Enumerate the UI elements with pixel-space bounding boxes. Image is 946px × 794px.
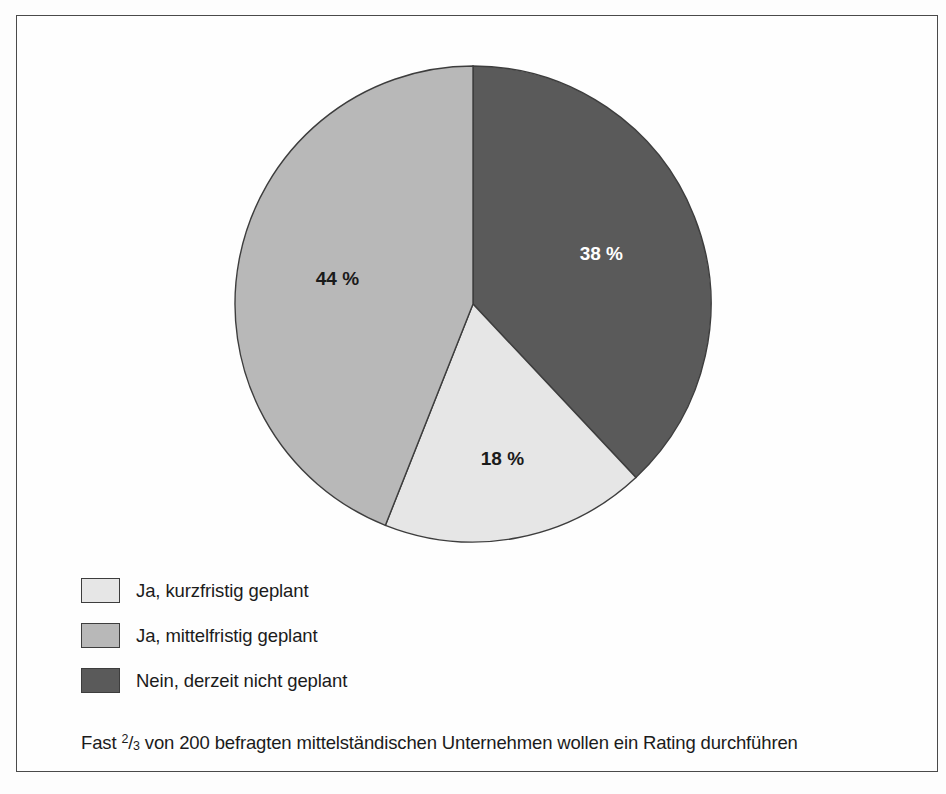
pie-chart-svg: 38 %18 %44 % — [233, 64, 713, 544]
caption-fraction: 2/3 — [121, 732, 140, 753]
pie-slice-value-label: 38 % — [580, 243, 623, 264]
legend-swatch-icon-kurzfristig — [81, 578, 120, 603]
pie-chart: 38 %18 %44 % — [233, 64, 713, 544]
legend-label-mittelfristig: Ja, mittelfristig geplant — [136, 625, 318, 647]
legend-item-mittelfristig[interactable]: Ja, mittelfristig geplant — [81, 613, 781, 658]
caption-fraction-denominator: 3 — [133, 739, 140, 753]
pie-slice-value-label: 18 % — [481, 448, 524, 469]
legend-item-kurzfristig[interactable]: Ja, kurzfristig geplant — [81, 568, 781, 613]
caption-suffix: von 200 befragten mittelständischen Unte… — [140, 732, 798, 753]
caption-prefix: Fast — [81, 732, 121, 753]
pie-slice-value-label: 44 % — [316, 268, 359, 289]
legend-swatch-icon-mittelfristig — [81, 623, 120, 648]
legend-label-kurzfristig: Ja, kurzfristig geplant — [136, 580, 309, 602]
legend-item-nicht-geplant[interactable]: Nein, derzeit nicht geplant — [81, 658, 781, 703]
pie-slice-group — [235, 66, 711, 542]
chart-caption: Fast 2/3 von 200 befragten mittelständis… — [81, 732, 798, 754]
legend: Ja, kurzfristig geplant Ja, mittelfristi… — [81, 568, 781, 703]
legend-swatch-icon-nicht-geplant — [81, 668, 120, 693]
chart-frame: 38 %18 %44 % Ja, kurzfristig geplant Ja,… — [16, 15, 938, 772]
legend-label-nicht-geplant: Nein, derzeit nicht geplant — [136, 670, 347, 692]
